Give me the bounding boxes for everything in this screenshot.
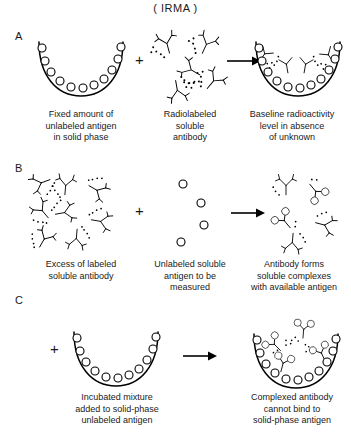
antibody <box>25 196 59 230</box>
panel-b-plus-operator: + <box>135 203 144 218</box>
antibody <box>272 174 296 195</box>
panel-letter-a: A <box>15 30 22 42</box>
antibody <box>27 169 58 200</box>
panel-c-caption-1: Incubated mixture added to solid-phase u… <box>57 392 177 427</box>
antibody <box>146 29 181 61</box>
antibody-antigen-complex <box>300 175 331 206</box>
panel-c-arrow <box>182 350 218 362</box>
panel-c-plus-operator: + <box>50 341 59 356</box>
panel-b-free-antigens <box>155 172 225 252</box>
panel-a-coated-well <box>33 38 129 102</box>
antibody <box>26 223 59 256</box>
antibody <box>281 232 307 255</box>
panel-b-caption-1: Excess of labeled soluble antibody <box>22 259 140 282</box>
panel-c-caption-2: Complexed antibody cannot bind to solid-… <box>234 392 350 427</box>
panel-a-caption-1: Fixed amount of unlabeled antigen in sol… <box>21 109 141 144</box>
panel-b-caption-2: Unlabeled soluble antigen to be measured <box>134 259 246 294</box>
bound-antibody <box>298 53 320 75</box>
panel-b-soluble-complexes <box>256 168 348 256</box>
antibody <box>164 74 197 104</box>
irma-figure: ( IRMA ) A + <box>0 0 351 432</box>
antibody <box>80 172 113 205</box>
antibody <box>49 197 77 225</box>
antibody <box>184 26 221 61</box>
antibody <box>86 206 114 234</box>
antibody <box>65 225 91 251</box>
antibody <box>51 173 77 199</box>
antibody <box>172 54 209 92</box>
panel-a-caption-2: Radiolabeled soluble antibody <box>135 109 245 144</box>
panel-a-plus-operator: + <box>135 52 144 67</box>
antibody-antigen-complex <box>291 319 315 343</box>
panel-c-coated-well <box>68 328 164 392</box>
panel-c-well-with-unbound-complexes <box>248 312 344 394</box>
figure-title: ( IRMA ) <box>0 2 351 14</box>
panel-b-excess-labeled-antibodies <box>24 170 130 256</box>
panel-a-well-with-bound-antibody <box>250 38 346 102</box>
bound-antibody <box>272 53 294 75</box>
antibody <box>312 209 339 238</box>
antibody <box>191 60 230 98</box>
panel-a-labeled-antibodies <box>152 28 232 106</box>
panel-letter-c: C <box>15 294 23 306</box>
panel-a-caption-3: Baseline radioactivity level in absence … <box>235 109 349 144</box>
panel-b-caption-3: Antibody forms soluble complexes with av… <box>237 259 351 294</box>
panel-letter-b: B <box>15 162 22 174</box>
antibody-antigen-complex <box>269 206 300 237</box>
